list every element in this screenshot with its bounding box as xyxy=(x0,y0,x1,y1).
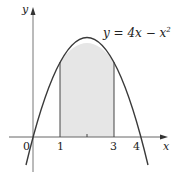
curve-label: y = 4x − x2 xyxy=(103,27,171,39)
tick-label-4: 4 xyxy=(133,141,140,152)
x-axis-label: x xyxy=(163,141,169,152)
shaded-area xyxy=(60,43,114,137)
tick-label-3: 3 xyxy=(110,141,117,152)
y-axis-label: y xyxy=(22,4,28,15)
tick-label-0: 0 xyxy=(23,141,30,152)
curve-label-exponent: 2 xyxy=(166,26,170,34)
y-axis-arrow xyxy=(31,7,36,15)
tick-label-1: 1 xyxy=(57,141,64,152)
x-axis-arrow xyxy=(160,135,168,140)
curve-label-text: y = 4x − x xyxy=(103,26,166,40)
